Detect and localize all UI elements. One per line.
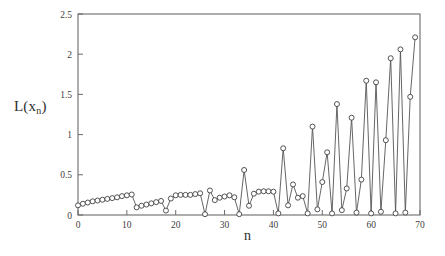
data-point-marker — [364, 78, 369, 83]
data-point-marker — [80, 201, 85, 206]
data-point-marker — [154, 200, 159, 205]
data-point-marker — [403, 210, 408, 215]
data-point-marker — [281, 146, 286, 151]
data-point-marker — [383, 138, 388, 143]
x-tick-label: 40 — [269, 220, 279, 230]
y-axis-ticks — [78, 14, 83, 215]
x-tick-label: 0 — [76, 220, 81, 230]
data-point-marker — [290, 182, 295, 187]
data-line — [78, 37, 415, 214]
data-point-marker — [339, 208, 344, 213]
data-point-marker — [212, 198, 217, 203]
data-point-marker — [105, 196, 110, 201]
data-point-marker — [388, 56, 393, 61]
data-point-marker — [95, 198, 100, 203]
data-point-marker — [203, 212, 208, 217]
data-point-marker — [119, 194, 124, 199]
data-point-marker — [168, 196, 173, 201]
x-tick-label: 50 — [318, 220, 328, 230]
data-point-marker — [251, 191, 256, 196]
data-point-marker — [261, 189, 266, 194]
data-point-marker — [207, 188, 212, 193]
data-point-marker — [310, 124, 315, 129]
data-point-marker — [124, 193, 129, 198]
data-point-marker — [266, 189, 271, 194]
y-tick-label: 0.5 — [60, 170, 72, 180]
data-point-marker — [359, 177, 364, 182]
data-point-marker — [349, 115, 354, 120]
data-point-marker — [227, 193, 232, 198]
chart-plot: 010203040506070 00.511.522.5 — [0, 0, 445, 256]
x-tick-label: 10 — [122, 220, 132, 230]
data-point-marker — [271, 189, 276, 194]
data-point-marker — [85, 200, 90, 205]
data-point-marker — [139, 203, 144, 208]
data-point-marker — [247, 203, 252, 208]
data-point-marker — [300, 194, 305, 199]
data-point-marker — [159, 198, 164, 203]
data-point-marker — [398, 47, 403, 52]
x-tick-label: 60 — [366, 220, 376, 230]
data-point-marker — [90, 199, 95, 204]
data-point-marker — [295, 195, 300, 200]
data-point-marker — [134, 205, 139, 210]
data-point-marker — [222, 194, 227, 199]
data-point-marker — [344, 186, 349, 191]
data-point-marker — [232, 195, 237, 200]
data-point-marker — [334, 102, 339, 107]
figure-container: 010203040506070 00.511.522.5 L(xn) n — [0, 0, 445, 256]
data-point-marker — [149, 201, 154, 206]
data-point-marker — [393, 211, 398, 216]
data-point-marker — [413, 35, 418, 40]
data-point-marker — [129, 192, 134, 197]
x-tick-label: 30 — [220, 220, 230, 230]
data-point-marker — [110, 196, 115, 201]
y-tick-label: 2 — [67, 50, 72, 60]
data-point-marker — [330, 211, 335, 216]
data-point-marker — [100, 197, 105, 202]
y-tick-label: 2.5 — [60, 10, 72, 20]
data-point-marker — [193, 192, 198, 197]
data-point-marker — [369, 211, 374, 216]
data-point-marker — [305, 211, 310, 216]
data-point-marker — [183, 192, 188, 197]
data-point-marker — [276, 211, 281, 216]
data-point-marker — [408, 94, 413, 99]
x-axis-label: n — [244, 228, 251, 244]
data-point-marker — [237, 212, 242, 217]
data-point-marker — [178, 192, 183, 197]
data-point-marker — [76, 203, 81, 208]
data-point-marker — [354, 210, 359, 215]
data-point-marker — [315, 207, 320, 212]
data-point-marker — [144, 202, 149, 207]
data-point-marker — [378, 209, 383, 214]
data-point-marker — [188, 192, 193, 197]
data-point-marker — [198, 191, 203, 196]
y-axis-label-main: L(x — [14, 98, 36, 114]
data-point-marker — [173, 193, 178, 198]
data-point-marker — [242, 167, 247, 172]
x-tick-label: 20 — [171, 220, 181, 230]
data-point-marker — [286, 203, 291, 208]
y-axis-tick-labels: 00.511.522.5 — [60, 10, 72, 221]
x-tick-label: 70 — [415, 220, 425, 230]
data-point-marker — [217, 195, 222, 200]
data-point-marker — [325, 150, 330, 155]
data-point-marker — [256, 189, 261, 194]
y-tick-label: 0 — [67, 211, 72, 221]
y-tick-label: 1.5 — [60, 90, 72, 100]
data-point-marker — [115, 195, 120, 200]
y-tick-label: 1 — [67, 130, 72, 140]
y-axis-label: L(xn) — [14, 98, 47, 116]
y-axis-label-close: ) — [41, 98, 46, 114]
data-point-marker — [374, 80, 379, 85]
plot-border — [78, 14, 420, 215]
data-point-marker — [163, 208, 168, 213]
data-point-marker — [320, 180, 325, 185]
plot-frame — [78, 14, 420, 215]
